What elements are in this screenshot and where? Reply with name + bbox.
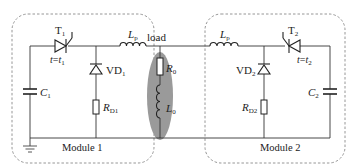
circuit-diagram: T1 t=t1 VD1 RD1 Lp C1 load R0 L0 Lp VD2 …: [0, 0, 354, 166]
t2-trigger-condition: t=t2: [297, 55, 312, 67]
t1-trigger-condition: t=t1: [50, 55, 65, 67]
schematic-graphic: [0, 0, 354, 166]
rd1-label: RD1: [103, 102, 118, 115]
inductor-lp-right-symbol: [210, 43, 238, 47]
diode-vd2-symbol: [258, 64, 270, 74]
lp-right-label: Lp: [220, 29, 230, 42]
resistor-r0-symbol: [157, 58, 163, 75]
inductor-lp-left-symbol: [120, 43, 146, 47]
load-label: load: [147, 32, 166, 43]
ground-icon: [23, 146, 37, 152]
resistor-rd1-symbol: [93, 100, 99, 114]
l0-label: L0: [166, 103, 176, 116]
c1-label: C1: [40, 87, 51, 100]
t1-label: T1: [55, 25, 65, 38]
capacitor-c2-symbol: [323, 89, 337, 94]
vd2-label: VD2: [236, 65, 255, 78]
diode-vd1-symbol: [90, 64, 102, 74]
t2-label: T2: [288, 25, 298, 38]
capacitor-c1-symbol: [23, 89, 37, 94]
module-2-label: Module 2: [260, 143, 301, 154]
vd1-label: VD1: [106, 65, 125, 78]
c2-label: C2: [308, 87, 319, 100]
r0-label: R0: [166, 63, 176, 76]
rd2-label: RD2: [242, 102, 257, 115]
resistor-rd2-symbol: [261, 100, 267, 114]
module-1-label: Module 1: [62, 143, 103, 154]
lp-left-label: Lp: [128, 29, 138, 42]
